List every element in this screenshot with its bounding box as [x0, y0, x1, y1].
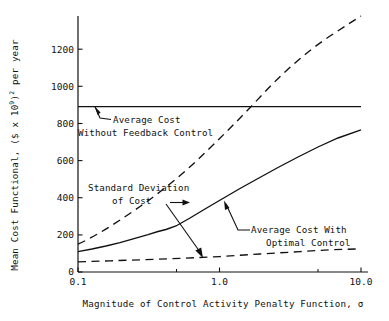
x-axis-title: Magnitude of Control Activity Penalty Fu…	[83, 298, 364, 309]
annot-without-feedback-line2: Without Feedback Control	[78, 127, 213, 138]
y-tick-label-1200: 1200	[51, 44, 74, 55]
annot-without-feedback-line1: Average Cost	[113, 114, 181, 125]
annotation-average-cost-with-optimal-control: Average Cost With Optimal Control	[251, 224, 350, 248]
arrowhead-stddev-lower	[195, 247, 203, 258]
x-tick-label-1-0: 1.0	[211, 276, 228, 287]
y-tick-label-200: 200	[57, 229, 74, 240]
annot-optimal-line2: Optimal Control	[266, 237, 350, 248]
series-standard-deviation-lower-branch	[78, 249, 361, 262]
arrowhead-without-feedback	[95, 107, 101, 115]
y-tick-label-1000: 1000	[51, 81, 74, 92]
y-tick-label-400: 400	[57, 192, 74, 203]
arrowhead-stddev-upper	[183, 199, 191, 205]
y-axis-title: Mean Cost Functional, ($ x 109)2 per yea…	[8, 39, 20, 271]
svg-text:Mean Cost Functional, ($ x 109: Mean Cost Functional, ($ x 109)2 per yea…	[8, 39, 20, 271]
x-axis-tick-labels: 0.1 1.0 10.0	[69, 276, 372, 287]
y-axis-tick-labels: 0 200 400 600 800 1000 1200	[51, 44, 74, 278]
x-tick-label-0-1: 0.1	[69, 276, 86, 287]
x-axis-ticks	[78, 268, 361, 273]
annot-optimal-line1: Average Cost With	[251, 224, 347, 235]
y-axis-ticks	[78, 49, 83, 272]
x-tick-label-10-0: 10.0	[350, 276, 373, 287]
annot-stddev-line1: Standard Deviation	[88, 182, 189, 193]
y-axis-title-pre: Mean Cost Functional, ($ x 10	[9, 105, 20, 271]
y-tick-label-600: 600	[57, 155, 74, 166]
y-axis-title-post: per year	[9, 39, 20, 91]
chart-canvas: 0 200 400 600 800 1000 1200 0.1 1.0 10.0…	[0, 0, 389, 321]
annotation-average-cost-without-feedback: Average Cost Without Feedback Control	[78, 114, 213, 138]
annot-stddev-line2: of Cost	[112, 195, 151, 206]
leader-optimal-control	[226, 204, 250, 230]
chart-figure: 0 200 400 600 800 1000 1200 0.1 1.0 10.0…	[0, 0, 389, 321]
y-tick-label-800: 800	[57, 118, 74, 129]
